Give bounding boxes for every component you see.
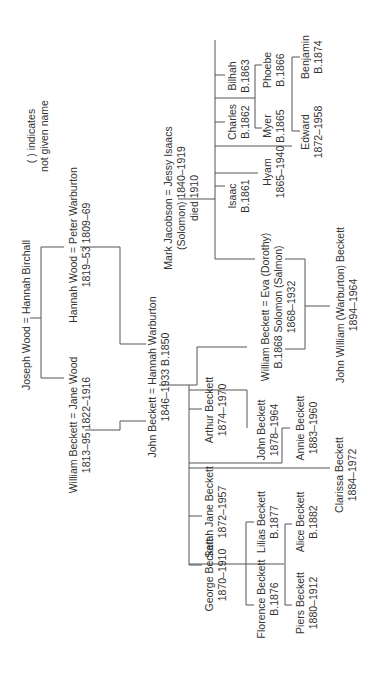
- couple-detail: B.1868 Solomon (Salmon): [272, 232, 285, 382]
- person-arthur: Arthur Beckett 1874–1970: [203, 371, 229, 449]
- person-john-hannah: John Beckett = Hannah Warburton 1846–193…: [146, 282, 172, 472]
- person-dates: B.1876: [268, 557, 281, 641]
- person-dates: B.1863: [239, 56, 252, 96]
- legend-line-2: not given name: [38, 96, 51, 176]
- couple-names: Joseph Wood = Hannah Birchall: [20, 225, 33, 405]
- couple-dates: 1819–53 1809–69: [80, 160, 93, 330]
- couple-names: John Beckett = Hannah Warburton: [146, 282, 159, 472]
- person-name: Bilhah: [226, 56, 239, 96]
- person-name: Piers Beckett: [294, 565, 307, 641]
- person-phoebe: Phoebe B.1866: [261, 50, 287, 90]
- person-annie: Annie Beckett 1883–1960: [294, 388, 320, 468]
- person-hannah-peter: Hannah Wood = Peter Warburton 1819–53 18…: [67, 160, 93, 330]
- person-name: John Beckett: [255, 392, 268, 468]
- person-bilhah: Bilhah B.1863: [226, 56, 252, 96]
- person-name: Isaac: [226, 176, 239, 216]
- person-name: Lilias Beckett: [255, 484, 268, 560]
- tree-connector-lines: [0, 0, 377, 678]
- person-name: Arthur Beckett: [203, 371, 216, 449]
- person-dates: B.1882: [307, 484, 320, 560]
- person-dates: 1878–1964: [268, 392, 281, 468]
- couple-notes: (Solomon) 1840–1919: [175, 118, 188, 278]
- person-hyam: Hyam 1865–1940: [261, 144, 287, 200]
- person-dates: B.1865: [274, 106, 287, 146]
- person-dates: B.1861: [239, 176, 252, 216]
- person-william-eva: William Beckett = Eva (Dorothy) B.1868 S…: [259, 232, 298, 382]
- person-piers: Piers Beckett 1880–1912: [294, 565, 320, 641]
- legend-line-1: ( ) indicates: [25, 96, 38, 176]
- person-name: Florence Beckett: [255, 557, 268, 641]
- person-clarissa: Clarissa Beckett 1884–1972: [333, 432, 359, 518]
- person-myer: Myer B.1865: [261, 106, 287, 146]
- person-john-william: John William (Warburton) Beckett 1894–19…: [334, 225, 360, 385]
- person-mark-jessy: Mark Jacobson = Jessy Isaacs (Solomon) 1…: [162, 118, 201, 278]
- couple-died: died 1910: [188, 118, 201, 278]
- person-name: John William (Warburton) Beckett: [334, 225, 347, 385]
- person-name: Phoebe: [261, 50, 274, 90]
- person-dates: 1872–1957: [216, 464, 229, 560]
- couple-dates: 1813–95 1822–1916: [80, 340, 93, 510]
- person-john-b: John Beckett 1878–1964: [255, 392, 281, 468]
- couple-dates: 1846–1933 B.1850: [159, 282, 172, 472]
- person-dates: B.1866: [274, 50, 287, 90]
- person-name: Clarissa Beckett: [333, 432, 346, 518]
- person-name: Myer: [261, 106, 274, 146]
- person-florence: Florence Beckett B.1876: [255, 557, 281, 641]
- couple-dates: 1868–1932: [285, 232, 298, 382]
- person-lilias: Lilias Beckett B.1877: [255, 484, 281, 560]
- person-edward: Edward 1872–1958: [299, 104, 325, 160]
- person-dates: B.1862: [239, 100, 252, 144]
- person-joseph-hannah: Joseph Wood = Hannah Birchall: [20, 225, 33, 405]
- person-dates: 1884–1972: [346, 432, 359, 518]
- person-dates: 1865–1940: [274, 144, 287, 200]
- legend-note: ( ) indicates not given name: [25, 96, 51, 176]
- person-alice: Alice Beckett B.1882: [294, 484, 320, 560]
- person-dates: 1872–1958: [312, 104, 325, 160]
- couple-names: Mark Jacobson = Jessy Isaacs: [162, 118, 175, 278]
- person-dates: 1880–1912: [307, 565, 320, 641]
- person-dates: 1894–1964: [347, 225, 360, 385]
- person-name: Annie Beckett: [294, 388, 307, 468]
- person-dates: B.1877: [268, 484, 281, 560]
- couple-names: Hannah Wood = Peter Warburton: [67, 160, 80, 330]
- person-dates: B.1874: [312, 32, 325, 82]
- person-dates: 1874–1970: [216, 371, 229, 449]
- person-isaac: Isaac B.1861: [226, 176, 252, 216]
- person-name: Alice Beckett: [294, 484, 307, 560]
- couple-names: William Beckett = Jane Wood: [67, 340, 80, 510]
- person-charles: Charles B.1862: [226, 100, 252, 144]
- person-benjamin: Benjamin B.1874: [299, 32, 325, 82]
- couple-names: William Beckett = Eva (Dorothy): [259, 232, 272, 382]
- person-name: Hyam: [261, 144, 274, 200]
- person-name: Sarah Jane Beckett: [203, 464, 216, 560]
- person-dates: 1883–1960: [307, 388, 320, 468]
- person-william-jane: William Beckett = Jane Wood 1813–95 1822…: [67, 340, 93, 510]
- person-sarah-jane: Sarah Jane Beckett 1872–1957: [203, 464, 229, 560]
- person-name: Benjamin: [299, 32, 312, 82]
- person-name: Edward: [299, 104, 312, 160]
- person-name: Charles: [226, 100, 239, 144]
